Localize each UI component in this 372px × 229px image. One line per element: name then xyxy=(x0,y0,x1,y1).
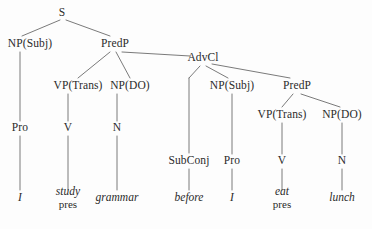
tree-edge xyxy=(282,94,293,107)
tree-node-np_subj_sub: NP(Subj) xyxy=(210,80,254,92)
tree-node-n_sub: N xyxy=(338,155,346,167)
leaf-gloss: pres xyxy=(273,198,291,211)
leaf-word: lunch xyxy=(329,191,355,204)
tree-node-np_do_sub: NP(DO) xyxy=(322,109,362,121)
tree-leaf-leaf_study: studypres xyxy=(56,185,80,211)
tree-node-np_do_main: NP(DO) xyxy=(110,80,150,92)
tree-leaf-leaf_i_main: I xyxy=(18,191,22,204)
tree-node-vp_trans_sub: VP(Trans) xyxy=(257,109,306,121)
tree-node-np_subj_main: NP(Subj) xyxy=(8,38,52,50)
tree-node-pro_main: Pro xyxy=(12,122,28,134)
tree-node-v_sub: V xyxy=(278,155,286,167)
tree-leaf-leaf_eat: eatpres xyxy=(273,185,291,211)
tree-node-pro_sub: Pro xyxy=(224,155,240,167)
leaf-word: before xyxy=(175,191,204,204)
syntax-tree-diagram: SNP(Subj)PredPVP(Trans)NP(DO)AdvClNP(Sub… xyxy=(0,0,372,229)
tree-node-advcl: AdvCl xyxy=(187,52,218,64)
tree-edge xyxy=(189,66,200,78)
tree-edge xyxy=(66,20,110,36)
tree-leaf-leaf_lunch: lunch xyxy=(329,191,355,204)
tree-node-vp_trans_main: VP(Trans) xyxy=(53,80,102,92)
tree-leaf-leaf_before: before xyxy=(175,191,204,204)
tree-node-n_main: N xyxy=(113,122,121,134)
leaf-word: I xyxy=(18,191,22,204)
leaf-word: study xyxy=(56,185,80,198)
tree-edge xyxy=(22,20,60,36)
tree-node-predp_sub: PredP xyxy=(283,80,311,92)
tree-node-predp_main: PredP xyxy=(101,38,129,50)
tree-edge xyxy=(116,52,130,78)
tree-edge xyxy=(78,52,110,78)
leaf-gloss: pres xyxy=(56,198,80,211)
leaf-word: I xyxy=(230,191,234,204)
leaf-word: eat xyxy=(273,185,291,198)
tree-edge xyxy=(122,52,190,56)
tree-leaf-leaf_i_sub: I xyxy=(230,191,234,204)
tree-edge xyxy=(206,66,228,78)
tree-leaf-leaf_grammar: grammar xyxy=(96,191,139,204)
tree-edge xyxy=(301,94,340,107)
tree-node-subconj: SubConj xyxy=(169,155,210,167)
tree-node-v_main: V xyxy=(64,122,72,134)
tree-node-s: S xyxy=(59,7,66,19)
leaf-word: grammar xyxy=(96,191,139,204)
